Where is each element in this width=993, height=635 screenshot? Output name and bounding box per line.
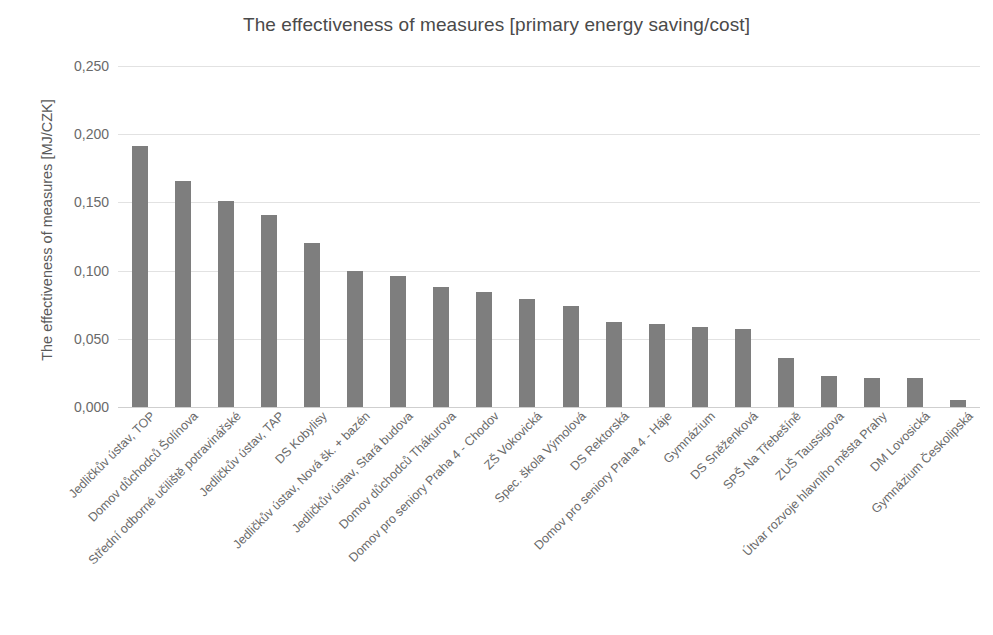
bar xyxy=(778,358,794,407)
x-axis-category-label: SPŠ Na Třebešíně xyxy=(721,409,804,492)
bar xyxy=(347,271,363,407)
bar xyxy=(519,299,535,407)
y-axis-tick-label: 0,100 xyxy=(47,263,109,279)
y-axis-tick-label: 0,000 xyxy=(47,399,109,415)
bar xyxy=(563,306,579,407)
bar xyxy=(175,181,191,407)
bar xyxy=(132,146,148,407)
y-axis-tick-label: 0,150 xyxy=(47,194,109,210)
bar xyxy=(864,378,880,407)
bar xyxy=(304,243,320,407)
gridline: 0,000 xyxy=(118,407,980,408)
bar xyxy=(390,276,406,407)
chart-title: The effectiveness of measures [primary e… xyxy=(0,14,993,36)
bars-layer xyxy=(118,66,980,407)
bar xyxy=(692,327,708,407)
bar xyxy=(433,287,449,407)
x-axis-category-labels: Jedličkův ústav, TOPDomov důchodců Šolín… xyxy=(118,409,980,629)
bar xyxy=(950,400,966,407)
bar xyxy=(476,292,492,407)
bar xyxy=(735,329,751,407)
x-axis-category-label: Střední odborné učiliště potravinářské xyxy=(85,409,243,567)
y-axis-tick-label: 0,050 xyxy=(47,331,109,347)
bar xyxy=(821,376,837,407)
bar xyxy=(606,322,622,407)
bar xyxy=(261,215,277,407)
plot-area: 0,2500,2000,1500,1000,0500,000 xyxy=(118,66,980,407)
y-axis-tick-label: 0,250 xyxy=(47,58,109,74)
bar-chart: The effectiveness of measures [primary e… xyxy=(0,0,993,635)
bar xyxy=(649,324,665,407)
y-axis-tick-label: 0,200 xyxy=(47,126,109,142)
bar xyxy=(907,378,923,407)
bar xyxy=(218,201,234,407)
